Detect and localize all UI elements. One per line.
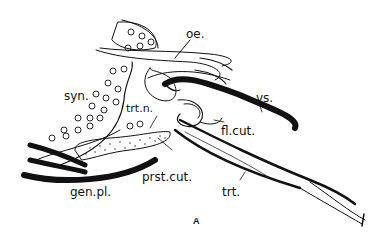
anatomical-diagram: oe. syn. trt.n. vs. fl.cut. prst.cut. ge… xyxy=(0,0,391,242)
label-prst-cut: prst.cut. xyxy=(142,171,192,183)
label-trt-n: trt.n. xyxy=(126,103,153,114)
label-syn: syn. xyxy=(64,90,89,102)
label-trt: trt. xyxy=(222,186,240,198)
label-oe: oe. xyxy=(186,28,205,40)
label-fl-cut: fl.cut. xyxy=(221,125,255,137)
label-vs: vs. xyxy=(256,92,273,104)
label-gen-pl: gen.pl. xyxy=(70,186,111,198)
panel-label: A xyxy=(193,217,200,226)
